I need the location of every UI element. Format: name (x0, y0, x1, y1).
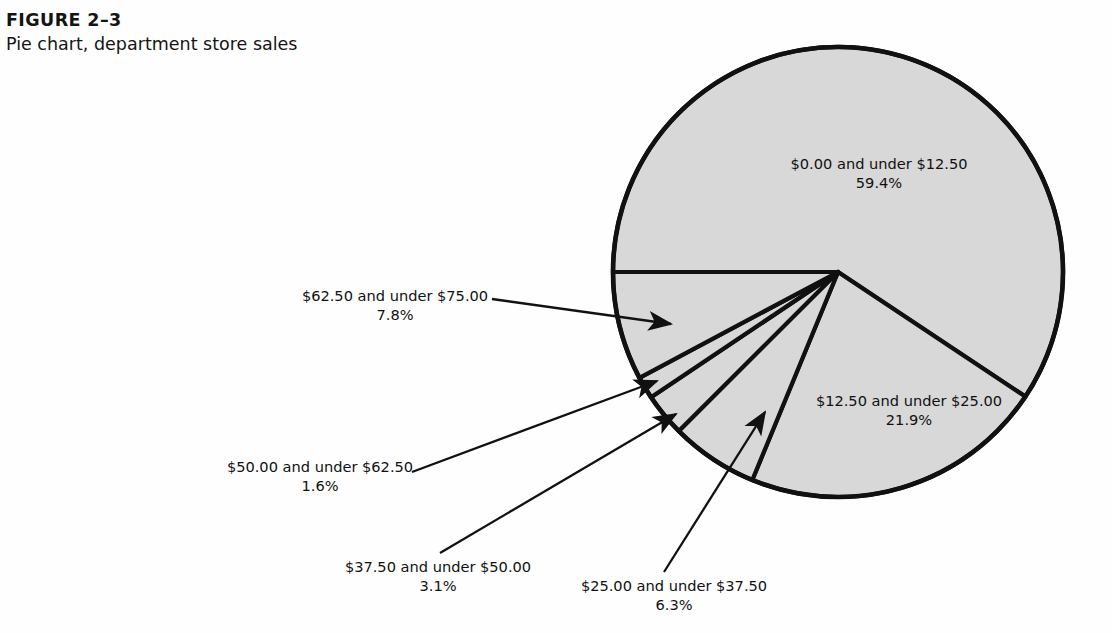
pie-label-percent: 1.6% (221, 477, 419, 496)
pie-label-percent: 6.3% (574, 596, 774, 615)
pie-label-percent: 3.1% (337, 577, 539, 596)
pie-label-12-50-to-25-00: $12.50 and under $25.00 21.9% (810, 392, 1008, 430)
pie-chart (0, 0, 1112, 633)
pie-label-percent: 7.8% (297, 306, 493, 325)
pie-label-range: $12.50 and under $25.00 (810, 392, 1008, 411)
pie-label-50-00-to-62-50: $50.00 and under $62.50 1.6% (221, 458, 419, 496)
pie-label-0-00-to-12-50: $0.00 and under $12.50 59.4% (784, 155, 974, 193)
pie-label-percent: 59.4% (784, 174, 974, 193)
pie-label-62-50-to-75-00: $62.50 and under $75.00 7.8% (297, 287, 493, 325)
pie-label-percent: 21.9% (810, 411, 1008, 430)
pie-label-25-00-to-37-50: $25.00 and under $37.50 6.3% (574, 577, 774, 615)
pie-label-range: $62.50 and under $75.00 (297, 287, 493, 306)
pie-label-range: $0.00 and under $12.50 (784, 155, 974, 174)
pie-label-37-50-to-50-00: $37.50 and under $50.00 3.1% (337, 558, 539, 596)
pie-label-range: $25.00 and under $37.50 (574, 577, 774, 596)
leader-line-37-50-to-50-00 (440, 414, 676, 553)
pie-label-range: $50.00 and under $62.50 (221, 458, 419, 477)
leader-line-50-00-to-62-50 (412, 381, 657, 472)
pie-label-range: $37.50 and under $50.00 (337, 558, 539, 577)
figure-container: FIGURE 2–3 Pie chart, department store s… (0, 0, 1112, 633)
